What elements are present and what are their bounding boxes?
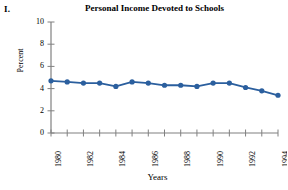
x-axis-tick-label: 1980	[55, 151, 63, 167]
x-axis-tick-labels: 19801982198419861988199019921994	[0, 0, 287, 190]
x-axis-tick-label: 1990	[217, 151, 225, 167]
x-axis-tick-label: 1992	[249, 151, 257, 167]
x-axis-tick-label: 1982	[87, 151, 95, 167]
x-axis-tick-label: 1994	[282, 151, 288, 167]
chart-plot-area: 0246810 19801982198419861988199019921994…	[0, 0, 287, 190]
x-axis-tick-label: 1988	[184, 151, 192, 167]
x-axis-tick-label: 1986	[152, 151, 160, 167]
x-axis-tick-label: 1984	[119, 151, 127, 167]
y-axis-label: Percent	[16, 31, 25, 91]
x-axis-label: Years	[0, 172, 287, 182]
